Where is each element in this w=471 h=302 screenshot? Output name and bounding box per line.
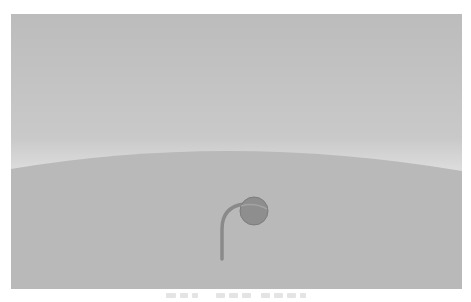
sprout-illustration — [11, 14, 462, 289]
figure-caption — [0, 289, 471, 302]
caption-glyph — [192, 293, 198, 298]
sprout-bud — [240, 197, 268, 225]
hill-ground — [11, 151, 462, 289]
caption-glyph — [300, 293, 306, 298]
illustration-frame — [11, 14, 462, 289]
caption-glyph — [166, 293, 176, 298]
caption-glyph — [242, 293, 251, 298]
caption-glyph — [261, 293, 270, 298]
caption-glyph — [229, 293, 238, 298]
caption-glyph — [180, 293, 188, 298]
caption-glyph — [216, 293, 225, 298]
caption-glyph — [287, 293, 296, 298]
caption-glyph — [274, 293, 283, 298]
